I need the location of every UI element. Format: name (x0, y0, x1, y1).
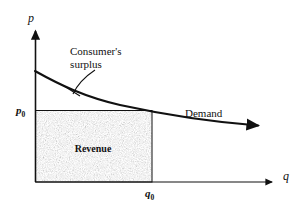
consumer-surplus-label-line2: surplus (70, 58, 102, 70)
q0-tick-label: q0 (145, 187, 155, 202)
svg-text:p0: p0 (15, 104, 26, 119)
consumer-surplus-label-line1: Consumer's (70, 45, 121, 57)
economics-demand-diagram: p q p0 q0 Consumer's surplus Demand Reve… (0, 0, 299, 215)
x-axis-label: q (283, 169, 289, 183)
p0-tick-label: p0 (15, 104, 26, 119)
svg-text:q0: q0 (145, 187, 155, 202)
revenue-label: Revenue (75, 143, 112, 154)
p0-subscript: 0 (22, 110, 26, 119)
y-axis-label: p (27, 11, 34, 25)
q0-subscript: 0 (151, 193, 155, 202)
demand-label: Demand (185, 107, 223, 119)
diagram-canvas: p q p0 q0 Consumer's surplus Demand Reve… (0, 0, 299, 215)
